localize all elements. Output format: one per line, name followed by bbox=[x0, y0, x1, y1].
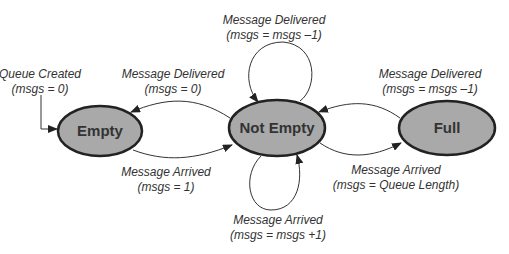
label-ne-loop-bottom-event: Message Arrived bbox=[230, 213, 326, 228]
label-empty-to-ne-action: (msgs = 1) bbox=[121, 180, 211, 195]
label-ne-loop-bottom-action: (msgs = msgs +1) bbox=[230, 228, 326, 243]
label-ne-to-empty: Message Delivered (msgs = 0) bbox=[122, 67, 225, 97]
label-initial: Queue Created (msgs = 0) bbox=[0, 67, 81, 97]
label-ne-loop-top-event: Message Delivered bbox=[223, 13, 326, 28]
state-full: Full bbox=[399, 101, 495, 155]
edge-ne-to-full bbox=[320, 143, 401, 155]
state-empty-label: Empty bbox=[77, 122, 124, 139]
edge-ne-to-empty bbox=[131, 101, 230, 118]
label-empty-to-ne: Message Arrived (msgs = 1) bbox=[121, 165, 211, 195]
edge-ne-loop-bottom bbox=[250, 155, 300, 210]
edge-full-to-ne bbox=[319, 104, 400, 118]
edge-initial bbox=[41, 95, 57, 129]
label-ne-to-empty-action: (msgs = 0) bbox=[122, 82, 225, 97]
label-ne-to-full-action: (msgs = Queue Length) bbox=[333, 178, 459, 193]
label-ne-to-empty-event: Message Delivered bbox=[122, 67, 225, 82]
edge-empty-to-ne bbox=[133, 145, 232, 158]
edge-ne-loop-top bbox=[249, 42, 312, 102]
label-ne-loop-top: Message Delivered (msgs = msgs –1) bbox=[223, 13, 326, 43]
label-ne-to-full-event: Message Arrived bbox=[333, 163, 459, 178]
state-not-empty-label: Not Empty bbox=[240, 119, 316, 136]
state-not-empty: Not Empty bbox=[229, 100, 325, 156]
label-ne-to-full: Message Arrived (msgs = Queue Length) bbox=[333, 163, 459, 193]
label-full-to-ne-action: (msgs = msgs –1) bbox=[379, 82, 482, 97]
label-initial-action: (msgs = 0) bbox=[0, 82, 81, 97]
state-empty: Empty bbox=[58, 106, 142, 156]
label-ne-loop-top-action: (msgs = msgs –1) bbox=[223, 28, 326, 43]
state-full-label: Full bbox=[434, 119, 461, 136]
label-ne-loop-bottom: Message Arrived (msgs = msgs +1) bbox=[230, 213, 326, 243]
label-full-to-ne: Message Delivered (msgs = msgs –1) bbox=[379, 67, 482, 97]
label-initial-event: Queue Created bbox=[0, 67, 81, 82]
label-empty-to-ne-event: Message Arrived bbox=[121, 165, 211, 180]
label-full-to-ne-event: Message Delivered bbox=[379, 67, 482, 82]
